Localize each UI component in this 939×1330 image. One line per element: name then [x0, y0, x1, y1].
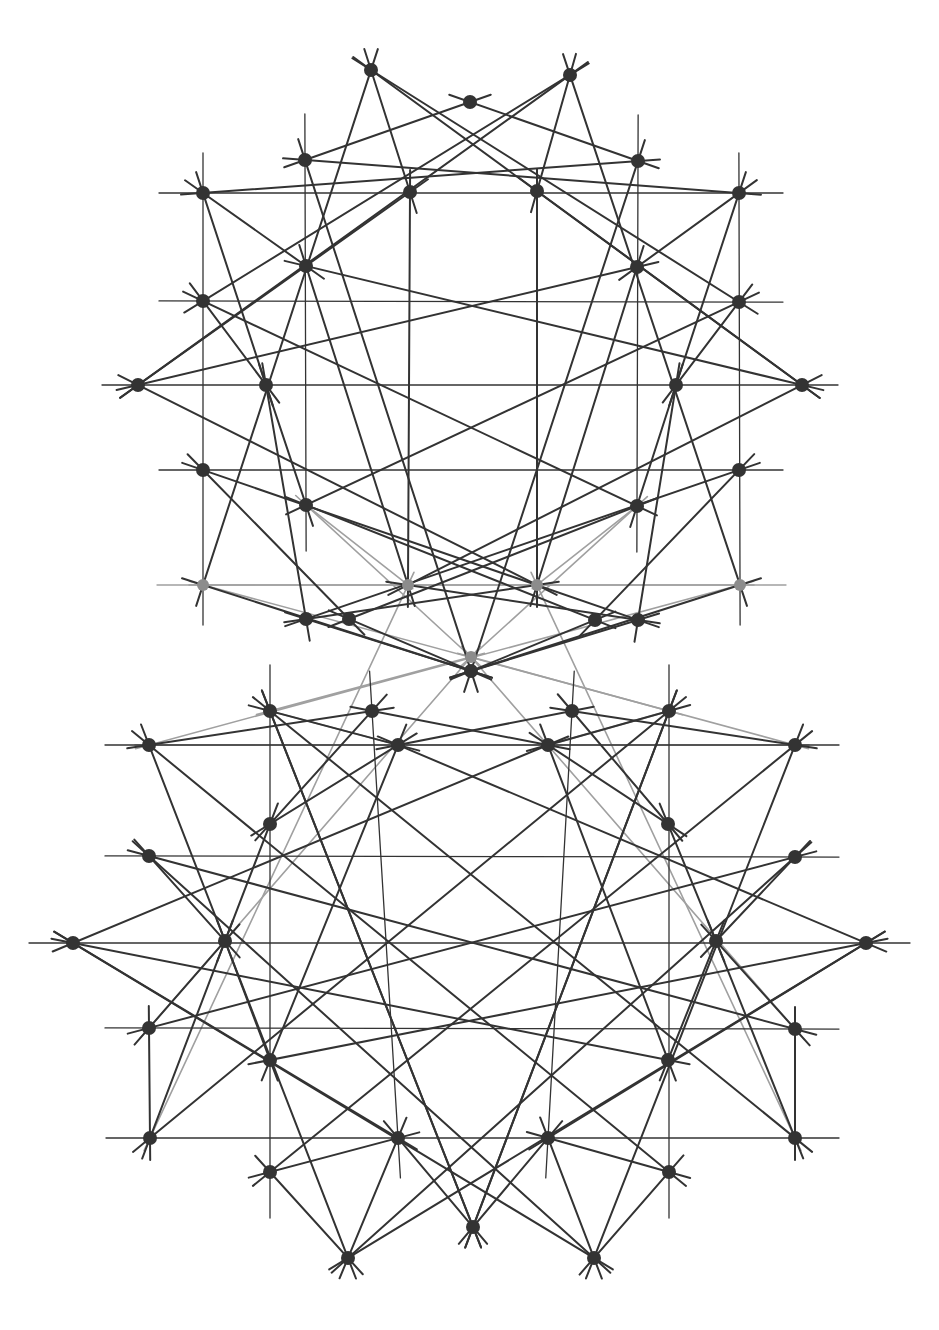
configuration-node[interactable] [342, 612, 356, 626]
configuration-node[interactable] [196, 463, 210, 477]
configuration-node[interactable] [391, 1131, 405, 1145]
configuration-node[interactable] [131, 378, 145, 392]
configuration-node[interactable] [732, 295, 746, 309]
configuration-node[interactable] [298, 153, 312, 167]
configuration-node[interactable] [365, 704, 379, 718]
configuration-node[interactable] [299, 498, 313, 512]
configuration-figure [0, 0, 939, 1330]
configuration-node[interactable] [263, 704, 277, 718]
configuration-node[interactable] [669, 378, 683, 392]
configuration-node[interactable] [464, 664, 478, 678]
configuration-node[interactable] [631, 613, 645, 627]
configuration-node[interactable] [631, 154, 645, 168]
configuration-node[interactable] [587, 1251, 601, 1265]
configuration-node[interactable] [142, 1021, 156, 1035]
configuration-node[interactable] [662, 704, 676, 718]
configuration-node[interactable] [142, 738, 156, 752]
configuration-node[interactable] [463, 95, 477, 109]
configuration-node[interactable] [661, 1053, 675, 1067]
configuration-node[interactable] [630, 260, 644, 274]
configuration-node[interactable] [299, 612, 313, 626]
configuration-node[interactable] [795, 378, 809, 392]
configuration-node[interactable] [565, 704, 579, 718]
configuration-node[interactable] [466, 1220, 480, 1234]
configuration-node[interactable] [263, 1165, 277, 1179]
configuration-node[interactable] [541, 1131, 555, 1145]
configuration-node[interactable] [465, 651, 477, 663]
configuration-node[interactable] [142, 849, 156, 863]
configuration-node[interactable] [788, 1131, 802, 1145]
configuration-node[interactable] [630, 499, 644, 513]
configuration-node[interactable] [403, 185, 417, 199]
configuration-node[interactable] [263, 1053, 277, 1067]
configuration-node[interactable] [218, 934, 232, 948]
configuration-node[interactable] [859, 936, 873, 950]
configuration-node[interactable] [661, 817, 675, 831]
configuration-node[interactable] [788, 1022, 802, 1036]
configuration-node[interactable] [196, 294, 210, 308]
configuration-node[interactable] [662, 1165, 676, 1179]
configuration-node[interactable] [143, 1131, 157, 1145]
configuration-node[interactable] [588, 613, 602, 627]
configuration-node[interactable] [196, 186, 210, 200]
configuration-node[interactable] [563, 68, 577, 82]
configuration-node[interactable] [66, 936, 80, 950]
configuration-node[interactable] [259, 378, 273, 392]
configuration-node[interactable] [197, 579, 209, 591]
configuration-node[interactable] [541, 738, 555, 752]
configuration-node[interactable] [299, 259, 313, 273]
configuration-node[interactable] [402, 579, 414, 591]
configuration-node[interactable] [530, 184, 544, 198]
configuration-node[interactable] [341, 1251, 355, 1265]
configuration-node[interactable] [732, 186, 746, 200]
configuration-node[interactable] [732, 463, 746, 477]
configuration-node[interactable] [734, 579, 746, 591]
configuration-node[interactable] [263, 817, 277, 831]
configuration-node[interactable] [709, 934, 723, 948]
configuration-node[interactable] [788, 738, 802, 752]
configuration-node[interactable] [531, 579, 543, 591]
diagram-canvas [0, 0, 939, 1330]
configuration-node[interactable] [788, 850, 802, 864]
configuration-node[interactable] [364, 63, 378, 77]
configuration-node[interactable] [391, 738, 405, 752]
